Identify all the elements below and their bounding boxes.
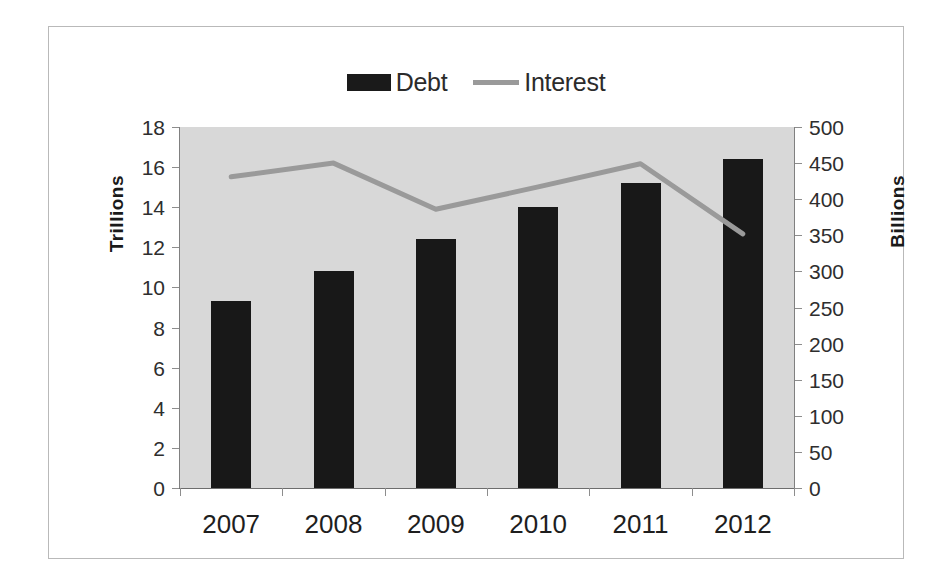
bar-debt-2009 xyxy=(416,239,456,488)
left-tick-label: 6 xyxy=(153,357,165,378)
right-axis-title: Billions xyxy=(887,175,909,248)
chart-frame: Debt Interest Trillions Billions 1816141… xyxy=(48,26,904,559)
x-tick-mark xyxy=(180,488,181,496)
right-tick-mark xyxy=(795,127,802,128)
right-tick-mark xyxy=(795,416,802,417)
left-tick-mark xyxy=(172,247,179,248)
left-axis-title: Trillions xyxy=(106,175,128,252)
right-tick-mark xyxy=(795,452,802,453)
left-tick-label: 8 xyxy=(153,317,165,338)
left-tick-label: 14 xyxy=(142,197,165,218)
right-tick-label: 450 xyxy=(809,153,844,174)
right-tick-label: 500 xyxy=(809,117,844,138)
left-tick-label: 2 xyxy=(153,437,165,458)
left-tick-label: 18 xyxy=(142,117,165,138)
x-tick-mark xyxy=(282,488,283,496)
right-tick-mark xyxy=(795,163,802,164)
left-tick-mark xyxy=(172,207,179,208)
left-tick-label: 4 xyxy=(153,397,165,418)
right-tick-mark xyxy=(795,488,802,489)
right-tick-label: 250 xyxy=(809,297,844,318)
x-tick-label: 2010 xyxy=(509,509,567,540)
right-tick-label: 300 xyxy=(809,261,844,282)
x-tick-label: 2007 xyxy=(202,509,260,540)
left-tick-mark xyxy=(172,488,179,489)
right-tick-label: 400 xyxy=(809,189,844,210)
x-tick-mark xyxy=(385,488,386,496)
left-tick-label: 12 xyxy=(142,237,165,258)
right-tick-mark xyxy=(795,308,802,309)
right-tick-label: 50 xyxy=(809,441,832,462)
legend-line-swatch-icon xyxy=(473,80,519,85)
bar-debt-2011 xyxy=(621,183,661,488)
right-tick-mark xyxy=(795,199,802,200)
right-tick-mark xyxy=(795,235,802,236)
x-tick-label: 2012 xyxy=(714,509,772,540)
right-tick-label: 200 xyxy=(809,333,844,354)
left-tick-mark xyxy=(172,448,179,449)
chart-legend: Debt Interest xyxy=(49,65,903,99)
right-tick-mark xyxy=(795,344,802,345)
bar-debt-2010 xyxy=(518,207,558,488)
x-tick-label: 2009 xyxy=(407,509,465,540)
x-tick-mark xyxy=(794,488,795,496)
left-tick-mark xyxy=(172,127,179,128)
right-tick-mark xyxy=(795,271,802,272)
left-tick-label: 16 xyxy=(142,157,165,178)
bar-debt-2008 xyxy=(314,271,354,488)
x-tick-mark xyxy=(589,488,590,496)
left-tick-mark xyxy=(172,408,179,409)
interest-polyline xyxy=(231,163,743,234)
right-tick-label: 150 xyxy=(809,369,844,390)
left-tick-label: 10 xyxy=(142,277,165,298)
legend-item-interest: Interest xyxy=(473,70,605,95)
right-tick-label: 100 xyxy=(809,405,844,426)
left-tick-mark xyxy=(172,167,179,168)
right-tick-label: 0 xyxy=(809,478,821,499)
legend-bar-swatch-icon xyxy=(347,74,391,91)
left-axis-spine xyxy=(179,127,180,488)
plot-area: 181614121086420 500450400350300250200150… xyxy=(180,127,794,488)
line-series-interest xyxy=(180,127,794,488)
x-tick-mark xyxy=(487,488,488,496)
x-tick-label: 2008 xyxy=(305,509,363,540)
x-tick-mark xyxy=(692,488,693,496)
bar-debt-2012 xyxy=(723,159,763,488)
legend-item-debt: Debt xyxy=(347,70,448,95)
x-tick-label: 2011 xyxy=(613,509,669,540)
left-tick-label: 0 xyxy=(153,478,165,499)
legend-label-debt: Debt xyxy=(396,70,448,95)
left-tick-mark xyxy=(172,287,179,288)
right-tick-label: 350 xyxy=(809,225,844,246)
x-axis-spine xyxy=(174,488,802,489)
bar-debt-2007 xyxy=(211,301,251,488)
right-tick-mark xyxy=(795,380,802,381)
left-tick-mark xyxy=(172,368,179,369)
left-tick-mark xyxy=(172,328,179,329)
legend-label-interest: Interest xyxy=(524,70,605,95)
